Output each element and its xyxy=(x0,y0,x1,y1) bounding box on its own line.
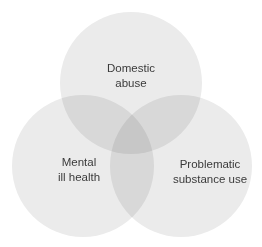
label-mental-ill-health: Mental ill health xyxy=(39,155,119,185)
label-problematic-substance-use: Problematic substance use xyxy=(165,157,255,187)
label-domestic-abuse: Domestic abuse xyxy=(91,61,171,91)
venn-diagram xyxy=(0,0,262,247)
